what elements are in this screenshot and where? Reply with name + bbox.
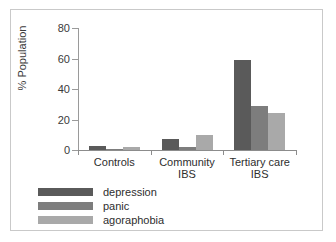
plot-area (78, 28, 296, 150)
x-axis-tick (296, 150, 297, 155)
y-axis-tick-label-wrap: 40 (26, 89, 70, 90)
x-axis-tick (78, 150, 79, 155)
chart-legend: depressionpanicagoraphobia (38, 186, 164, 228)
bar-depression[interactable] (89, 146, 106, 150)
bar-group-bars (162, 28, 213, 150)
x-axis-group-label: Controls (78, 156, 151, 168)
x-axis-tick (223, 150, 224, 155)
y-axis-tick-label: 0 (30, 145, 70, 156)
x-axis-group-label: Tertiary care IBS (223, 156, 296, 180)
legend-item[interactable]: depression (38, 186, 164, 198)
x-axis-group-label: Community IBS (151, 156, 224, 180)
legend-label: depression (103, 187, 157, 198)
y-axis-tick-label: 60 (30, 53, 70, 64)
y-axis-tick-label-wrap: 0 (26, 150, 70, 151)
bar-panic[interactable] (106, 149, 123, 150)
bar-agoraphobia[interactable] (196, 135, 213, 150)
bar-depression[interactable] (234, 60, 251, 150)
bar-group (89, 28, 140, 150)
bar-panic[interactable] (251, 106, 268, 150)
y-axis-tick-label-wrap: 60 (26, 59, 70, 60)
bar-depression[interactable] (162, 139, 179, 150)
bar-agoraphobia[interactable] (123, 147, 140, 150)
legend-label: panic (103, 201, 129, 212)
figure: % Population 020406080 ControlsCommunity… (0, 0, 336, 242)
legend-swatch-panic (38, 202, 93, 210)
x-axis-line (72, 150, 296, 151)
bar-agoraphobia[interactable] (268, 113, 285, 150)
legend-item[interactable]: agoraphobia (38, 214, 164, 226)
bar-group (162, 28, 213, 150)
legend-swatch-agoraphobia (38, 216, 93, 224)
y-axis-tick-label-wrap: 80 (26, 28, 70, 29)
bar-group-bars (234, 28, 285, 150)
y-axis-tick-label-wrap: 20 (26, 120, 70, 121)
legend-swatch-depression (38, 188, 93, 196)
legend-item[interactable]: panic (38, 200, 164, 212)
y-axis-tick-label: 40 (30, 84, 70, 95)
x-axis-tick (151, 150, 152, 155)
y-axis-tick-label: 80 (30, 23, 70, 34)
y-axis-tick-label: 20 (30, 114, 70, 125)
bar-panic[interactable] (179, 147, 196, 150)
bar-group (234, 28, 285, 150)
legend-label: agoraphobia (103, 215, 164, 226)
bar-group-bars (89, 28, 140, 150)
